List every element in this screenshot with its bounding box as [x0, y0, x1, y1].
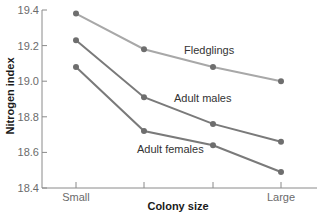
- x-axis-title: Colony size: [147, 200, 208, 212]
- y-tick-label: 19.2: [18, 40, 39, 52]
- series-line: [76, 14, 281, 82]
- data-point-marker: [73, 11, 79, 17]
- x-tick-label: Large: [267, 191, 295, 203]
- y-tick-label: 19.4: [18, 4, 39, 16]
- y-tick-label: 18.4: [18, 182, 39, 194]
- data-point-marker: [141, 94, 147, 100]
- data-point-marker: [278, 169, 284, 175]
- y-tick-label: 18.6: [18, 146, 39, 158]
- x-tick-label: Small: [62, 191, 90, 203]
- series-label: Adult males: [174, 92, 232, 104]
- series-label: Adult females: [137, 143, 204, 155]
- y-tick-label: 19.0: [18, 75, 39, 87]
- y-axis-title: Nitrogen index: [4, 57, 16, 135]
- series-line: [76, 67, 281, 172]
- series-layer: FledglingsAdult malesAdult females: [73, 11, 284, 175]
- data-point-marker: [210, 142, 216, 148]
- line-chart: 18.418.618.819.019.219.4 SmallLarge Fled…: [0, 0, 317, 217]
- y-tick-label: 18.8: [18, 111, 39, 123]
- y-axis: 18.418.618.819.019.219.4: [18, 4, 47, 194]
- data-point-marker: [141, 128, 147, 134]
- series-adult-males: Adult males: [73, 37, 284, 144]
- data-point-marker: [141, 46, 147, 52]
- data-point-marker: [278, 139, 284, 145]
- data-point-marker: [73, 64, 79, 70]
- series-label: Fledglings: [184, 44, 235, 56]
- series-fledglings: Fledglings: [73, 11, 284, 85]
- data-point-marker: [210, 64, 216, 70]
- data-point-marker: [73, 37, 79, 43]
- data-point-marker: [210, 121, 216, 127]
- series-line: [76, 40, 281, 141]
- series-adult-females: Adult females: [73, 64, 284, 175]
- data-point-marker: [278, 78, 284, 84]
